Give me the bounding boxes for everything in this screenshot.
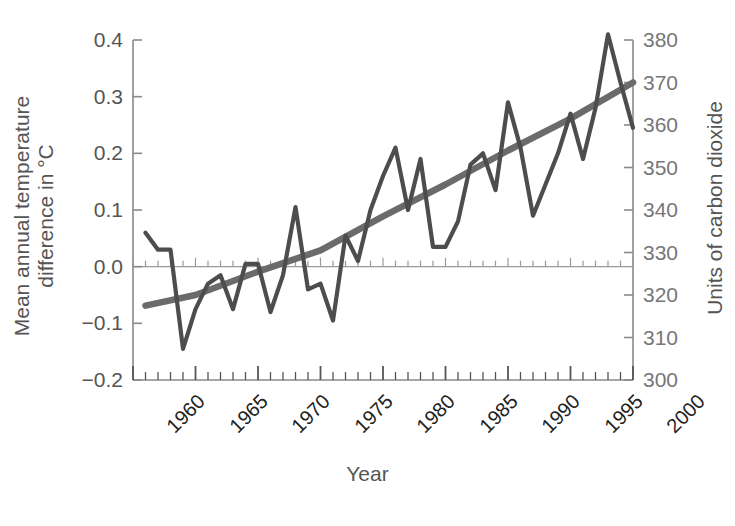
plot-area xyxy=(0,0,735,526)
chart-figure: Mean annual temperature difference in °C… xyxy=(0,0,735,526)
co2-trend-line xyxy=(146,83,634,306)
temperature-line xyxy=(146,34,634,349)
